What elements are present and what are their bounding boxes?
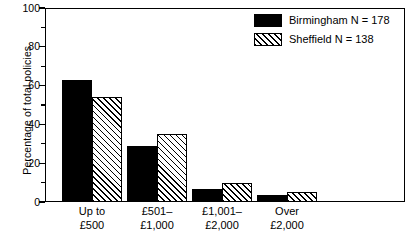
legend-label: Birmingham N = 178	[289, 15, 390, 26]
bar	[92, 97, 122, 202]
x-axis-tick-labels: Up to £500£501– £1,000£1,001– £2,000Over…	[45, 205, 405, 242]
y-tick-label: 40	[14, 119, 40, 130]
bar	[62, 80, 92, 202]
bar	[157, 134, 187, 202]
legend-item: Sheffield N = 138	[254, 31, 390, 48]
bar	[287, 192, 317, 202]
bar	[222, 183, 252, 202]
bar	[127, 146, 157, 202]
solid-black-swatch-icon	[254, 14, 282, 27]
diagonal-hatch-swatch-icon	[254, 33, 282, 46]
bar	[192, 189, 222, 202]
y-tick-label: 0	[14, 197, 40, 208]
x-tick-label: Over £2,000	[239, 205, 335, 232]
y-tick-label: 60	[14, 80, 40, 91]
bar-chart: Percentage of total policies 0 20 40 60 …	[0, 0, 409, 242]
legend-item: Birmingham N = 178	[254, 12, 390, 29]
bar-group	[192, 8, 252, 202]
bar-group	[127, 8, 187, 202]
bar-group	[62, 8, 122, 202]
bar	[257, 195, 287, 202]
y-axis-tick-labels: 0 20 40 60 80 100	[12, 0, 40, 242]
legend-label: Sheffield N = 138	[289, 34, 374, 45]
y-tick-label: 100	[14, 3, 40, 14]
legend: Birmingham N = 178 Sheffield N = 138	[254, 12, 390, 50]
y-tick-label: 20	[14, 158, 40, 169]
y-tick-label: 80	[14, 41, 40, 52]
